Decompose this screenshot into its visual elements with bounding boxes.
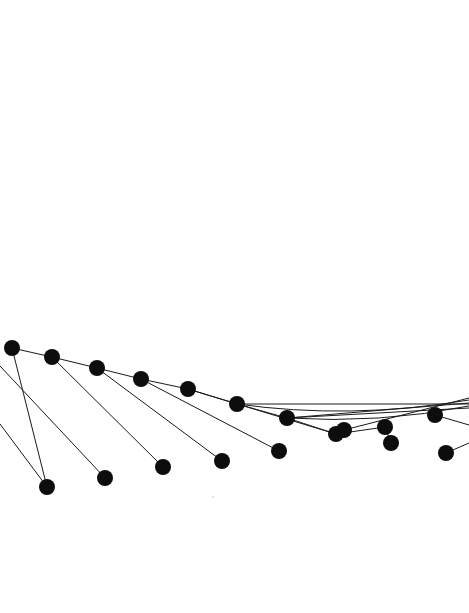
speck-layer: [212, 496, 214, 498]
data-point-l2: [97, 470, 113, 486]
data-point-l4: [214, 453, 230, 469]
plot-background: [0, 0, 469, 613]
faint-speck: [212, 496, 214, 498]
data-point-l1: [39, 479, 55, 495]
data-point-l5: [271, 443, 287, 459]
data-point-l6: [383, 435, 399, 451]
data-point-u9: [336, 422, 352, 438]
data-point-u4: [133, 371, 149, 387]
data-point-u5: [180, 381, 196, 397]
data-point-l7: [438, 445, 454, 461]
scatter-link-plot: [0, 0, 469, 613]
data-point-u6: [229, 396, 245, 412]
data-point-u2: [44, 349, 60, 365]
data-point-l3: [155, 459, 171, 475]
data-point-u3: [89, 360, 105, 376]
data-point-u1: [4, 340, 20, 356]
data-point-u10: [377, 419, 393, 435]
data-point-u7: [279, 410, 295, 426]
data-point-u11: [427, 407, 443, 423]
figure-root: [0, 0, 469, 613]
